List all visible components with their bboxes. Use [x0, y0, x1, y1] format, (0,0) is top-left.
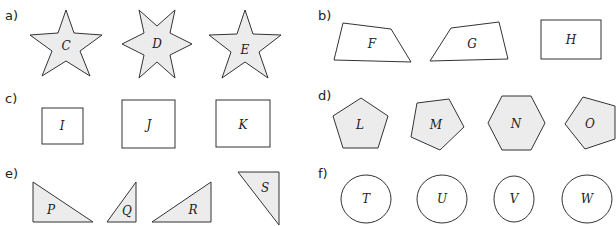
star-c: C	[30, 10, 102, 76]
quad-f: F	[334, 23, 411, 62]
part-d: d) L M N O	[318, 88, 615, 150]
part-a-label: a)	[5, 8, 18, 23]
quad-g: G	[430, 22, 508, 61]
circle-w: W	[562, 175, 612, 223]
triangle-r: R	[152, 182, 211, 222]
shape-label-q: Q	[122, 204, 132, 218]
rect-j: J	[122, 100, 175, 148]
shape-label-v: V	[510, 192, 520, 206]
shape-label-s: S	[261, 181, 269, 195]
rect-k: K	[216, 100, 270, 147]
part-b: b) F G H	[318, 8, 601, 62]
shape-label-l: L	[355, 118, 364, 132]
shape-label-t: T	[362, 192, 371, 206]
part-c: c) I J K	[5, 91, 270, 148]
pentagon-m: M	[411, 99, 464, 150]
ellipse-v: V	[494, 176, 534, 222]
shape-label-u: U	[437, 192, 448, 206]
star-e: E	[209, 10, 281, 78]
shape-label-o: O	[585, 117, 595, 131]
shape-label-e: E	[240, 43, 250, 57]
shapes-diagram: a) C D E b) F G H c)	[0, 0, 616, 226]
rect-h: H	[541, 20, 601, 59]
rect-i: I	[42, 108, 83, 144]
star-d: D	[122, 10, 192, 78]
shape-label-i: I	[59, 119, 65, 133]
shape-label-k: K	[238, 118, 249, 132]
shape-label-c: C	[61, 39, 70, 53]
pentagon-l: L	[333, 98, 388, 148]
circle-t: T	[341, 175, 391, 223]
shape-label-w: W	[581, 192, 595, 206]
shape-label-m: M	[429, 118, 443, 132]
shape-label-h: H	[565, 33, 577, 47]
part-a: a) C D E	[5, 8, 281, 78]
shape-label-n: N	[510, 117, 522, 131]
shape-label-g: G	[467, 37, 477, 51]
part-e-label: e)	[5, 166, 18, 181]
part-c-label: c)	[5, 91, 17, 106]
hexagon-n: N	[488, 96, 545, 150]
shape-label-f: F	[367, 37, 377, 51]
shape-label-p: P	[46, 203, 56, 217]
part-f: f) T U V W	[318, 166, 612, 223]
part-e: e) P Q R S	[5, 166, 279, 225]
shape-label-d: D	[151, 37, 162, 51]
circle-u: U	[417, 175, 467, 223]
pentagon-o: O	[565, 97, 615, 149]
shape-label-r: R	[187, 203, 197, 217]
part-b-label: b)	[318, 8, 331, 23]
part-f-label: f)	[318, 166, 328, 181]
triangle-s: S	[238, 172, 279, 225]
triangle-q: Q	[107, 182, 136, 222]
part-d-label: d)	[318, 88, 331, 103]
triangle-p: P	[33, 182, 93, 222]
